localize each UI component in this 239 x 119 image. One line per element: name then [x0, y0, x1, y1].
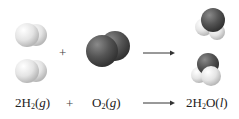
oxygen-molecule — [86, 31, 130, 67]
reactant-hydrogen-formula: 2H2(g) — [15, 96, 50, 110]
plus-sign-equation: + — [66, 96, 73, 112]
reaction-arrow-equation — [143, 101, 175, 106]
water-molecule-1 — [195, 8, 225, 40]
hydrogen-molecule-2 — [15, 59, 47, 83]
element-symbol: O — [206, 95, 215, 110]
paren: ) — [223, 95, 227, 110]
reactant-oxygen-formula: O2(g) — [92, 96, 121, 110]
paren: ) — [116, 95, 120, 110]
product-water-formula: 2H2O(l) — [186, 96, 228, 110]
hydrogen-molecule-1 — [15, 23, 47, 47]
element-symbol: H — [193, 95, 202, 110]
reaction-arrow-molecules — [143, 51, 175, 56]
water-molecule-2 — [191, 53, 221, 86]
plus-sign-molecules: + — [59, 45, 66, 61]
paren: ) — [46, 95, 50, 110]
element-symbol: O — [92, 95, 101, 110]
element-symbol: H — [22, 95, 31, 110]
